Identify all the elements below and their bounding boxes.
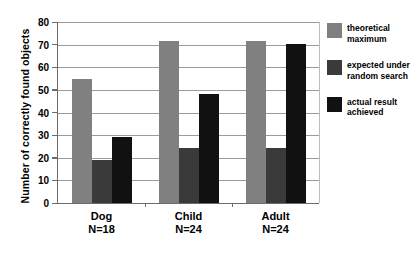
- y-axis-tick: [52, 112, 58, 113]
- y-axis-tick: [52, 157, 58, 158]
- bar: [199, 94, 219, 203]
- bar-chart-figure: Number of correctly found objects 010203…: [0, 0, 416, 261]
- y-axis-tick: [52, 203, 58, 204]
- y-axis-title: Number of correctly found objects: [19, 6, 31, 226]
- y-axis-tick: [52, 22, 58, 23]
- bar: [159, 41, 179, 203]
- legend-label: actual resultachieved: [347, 97, 397, 119]
- chart-legend: theoreticalmaximumexpected underrandom s…: [327, 23, 415, 133]
- y-axis-tick-label: 60: [38, 62, 49, 73]
- legend-item: expected underrandom search: [327, 60, 415, 82]
- y-axis-tick-label: 10: [38, 175, 49, 186]
- y-axis-tick-label: 20: [38, 152, 49, 163]
- legend-label-line1: theoretical: [347, 23, 390, 34]
- legend-label-line1: expected under: [347, 60, 410, 71]
- legend-label: theoreticalmaximum: [347, 23, 390, 45]
- legend-item: actual resultachieved: [327, 97, 415, 119]
- x-axis-tick: [145, 203, 146, 207]
- y-axis-tick: [52, 89, 58, 90]
- legend-label-line1: actual result: [347, 97, 397, 108]
- gridline: [58, 22, 319, 23]
- y-axis-tick-label: 40: [38, 107, 49, 118]
- x-axis-group-label: ChildN=24: [175, 210, 203, 237]
- x-axis-category-name: Dog: [91, 210, 112, 222]
- x-axis-category-name: Child: [175, 210, 203, 222]
- y-axis-tick-label: 70: [38, 39, 49, 50]
- bar: [112, 137, 132, 203]
- gridline: [58, 45, 319, 46]
- legend-label-line2: maximum: [347, 34, 390, 45]
- y-axis-tick: [52, 67, 58, 68]
- legend-swatch: [327, 97, 342, 112]
- bar: [246, 41, 266, 203]
- y-axis-tick-label: 0: [43, 198, 49, 209]
- y-axis-tick: [52, 135, 58, 136]
- legend-swatch: [327, 23, 342, 38]
- gridline: [58, 90, 319, 91]
- bar: [92, 160, 112, 203]
- plot-frame-right: [319, 22, 320, 203]
- x-axis-group-label: DogN=18: [88, 210, 115, 237]
- gridline: [58, 135, 319, 136]
- x-axis-category-name: Adult: [261, 210, 289, 222]
- legend-item: theoreticalmaximum: [327, 23, 415, 45]
- y-axis-tick-label: 30: [38, 130, 49, 141]
- x-axis-sample-size: N=24: [261, 223, 289, 236]
- gridline: [58, 113, 319, 114]
- bar: [286, 44, 306, 204]
- x-axis-tick: [232, 203, 233, 207]
- bar: [72, 79, 92, 203]
- bar: [179, 148, 199, 203]
- x-axis-sample-size: N=18: [88, 223, 115, 236]
- plot-area: 01020304050607080DogN=18ChildN=24AdultN=…: [57, 22, 319, 204]
- bar: [266, 148, 286, 203]
- y-axis-tick-label: 80: [38, 17, 49, 28]
- y-axis-tick: [52, 44, 58, 45]
- legend-label-line2: random search: [347, 71, 410, 82]
- legend-swatch: [327, 60, 342, 75]
- x-axis-group-label: AdultN=24: [261, 210, 289, 237]
- y-axis-tick: [52, 180, 58, 181]
- x-axis-sample-size: N=24: [175, 223, 203, 236]
- legend-label-line2: achieved: [347, 107, 397, 118]
- legend-label: expected underrandom search: [347, 60, 410, 82]
- y-axis-tick-label: 50: [38, 84, 49, 95]
- gridline: [58, 67, 319, 68]
